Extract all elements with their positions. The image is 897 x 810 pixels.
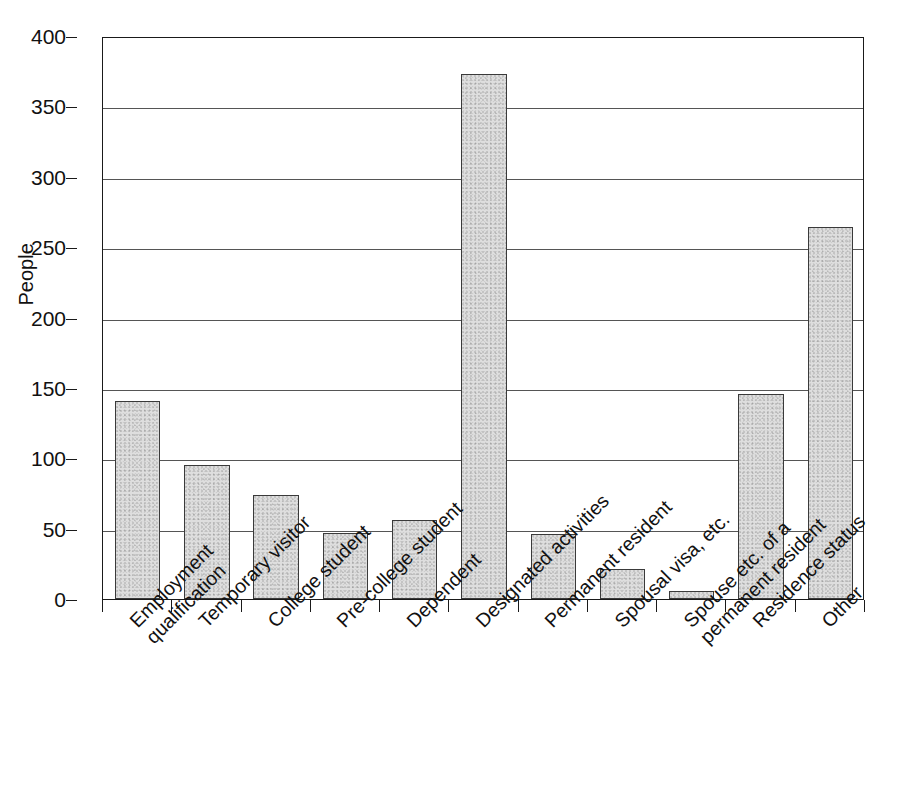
y-tick-label: 200	[31, 307, 66, 331]
y-tick-mark	[66, 459, 77, 460]
plot-area	[102, 37, 864, 600]
bar-chart: People 400350300250200150100500 Employme…	[0, 0, 897, 810]
x-tick-mark	[518, 600, 519, 612]
y-tick-mark	[66, 178, 77, 179]
bar	[115, 401, 160, 599]
y-tick-label: 350	[31, 95, 66, 119]
y-tick-label: 150	[31, 377, 66, 401]
x-tick-mark	[795, 600, 796, 612]
x-tick-mark	[587, 600, 588, 612]
y-tick-label: 100	[31, 447, 66, 471]
x-tick-mark	[310, 600, 311, 612]
y-tick-mark	[66, 319, 77, 320]
x-tick-mark	[379, 600, 380, 612]
x-tick-mark	[864, 600, 865, 612]
y-tick-mark	[66, 248, 77, 249]
y-tick-mark	[66, 600, 77, 601]
y-tick-mark	[66, 107, 77, 108]
y-tick-label: 400	[31, 25, 66, 49]
y-tick-mark	[66, 530, 77, 531]
y-tick-label: 0	[54, 588, 66, 612]
x-tick-mark	[102, 600, 103, 612]
y-tick-label: 250	[31, 236, 66, 260]
y-axis: 400350300250200150100500	[0, 0, 102, 637]
y-tick-label: 300	[31, 166, 66, 190]
y-tick-label: 50	[43, 518, 66, 542]
bar	[461, 74, 506, 599]
y-tick-mark	[66, 37, 77, 38]
y-tick-mark	[66, 389, 77, 390]
